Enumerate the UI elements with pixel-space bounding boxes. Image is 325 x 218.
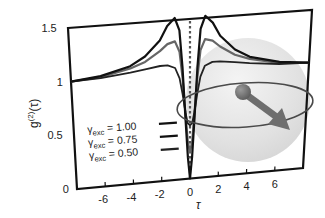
y-tick-label: 0.5 [47, 129, 62, 141]
x-tick-label: -6 [98, 193, 108, 205]
x-axis-title: τ [196, 198, 202, 212]
x-tick-label: -2 [155, 188, 165, 200]
x-tick-label: 4 [244, 180, 250, 192]
x-tick-label: -4 [127, 191, 137, 203]
y-title-sup: (2) [26, 111, 35, 121]
legend-swatch [161, 149, 179, 150]
y-tick-label: 1 [57, 76, 63, 88]
svg-text:g(2)(τ): g(2)(τ) [26, 99, 41, 128]
y-tick-label: 1.5 [41, 22, 56, 34]
y-title-base: g [27, 121, 41, 128]
y-title-arg: (τ) [27, 99, 41, 112]
x-tick-label: 0 [187, 186, 193, 198]
legend-swatch [159, 123, 177, 124]
x-tick-label: 2 [215, 183, 221, 195]
y-tick-label: 0 [63, 183, 69, 195]
x-tick-label: 6 [272, 178, 278, 190]
legend: γexc = 1.00γexc = 0.75γexc = 0.50 [87, 117, 180, 164]
legend-swatch [160, 136, 178, 137]
y-axis-title: g(2)(τ) [26, 99, 41, 128]
state-ball [235, 84, 251, 100]
g2-correlation-chart: -6-4-20246 00.511.5 τ g(2)(τ) γexc = 1.0… [0, 0, 325, 218]
y-axis-ticks: 00.511.5 [41, 22, 69, 195]
